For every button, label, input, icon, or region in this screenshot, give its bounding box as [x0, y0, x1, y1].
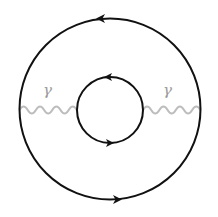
inner-fermion-loop: [77, 77, 143, 143]
photon-label-right: γ: [163, 81, 172, 99]
photon-label-left: γ: [43, 81, 52, 99]
photon-propagator-right: [143, 107, 200, 114]
photon-propagator-left: [20, 107, 77, 114]
feynman-diagram: γ γ: [0, 0, 218, 217]
outer-fermion-loop: [20, 19, 201, 200]
